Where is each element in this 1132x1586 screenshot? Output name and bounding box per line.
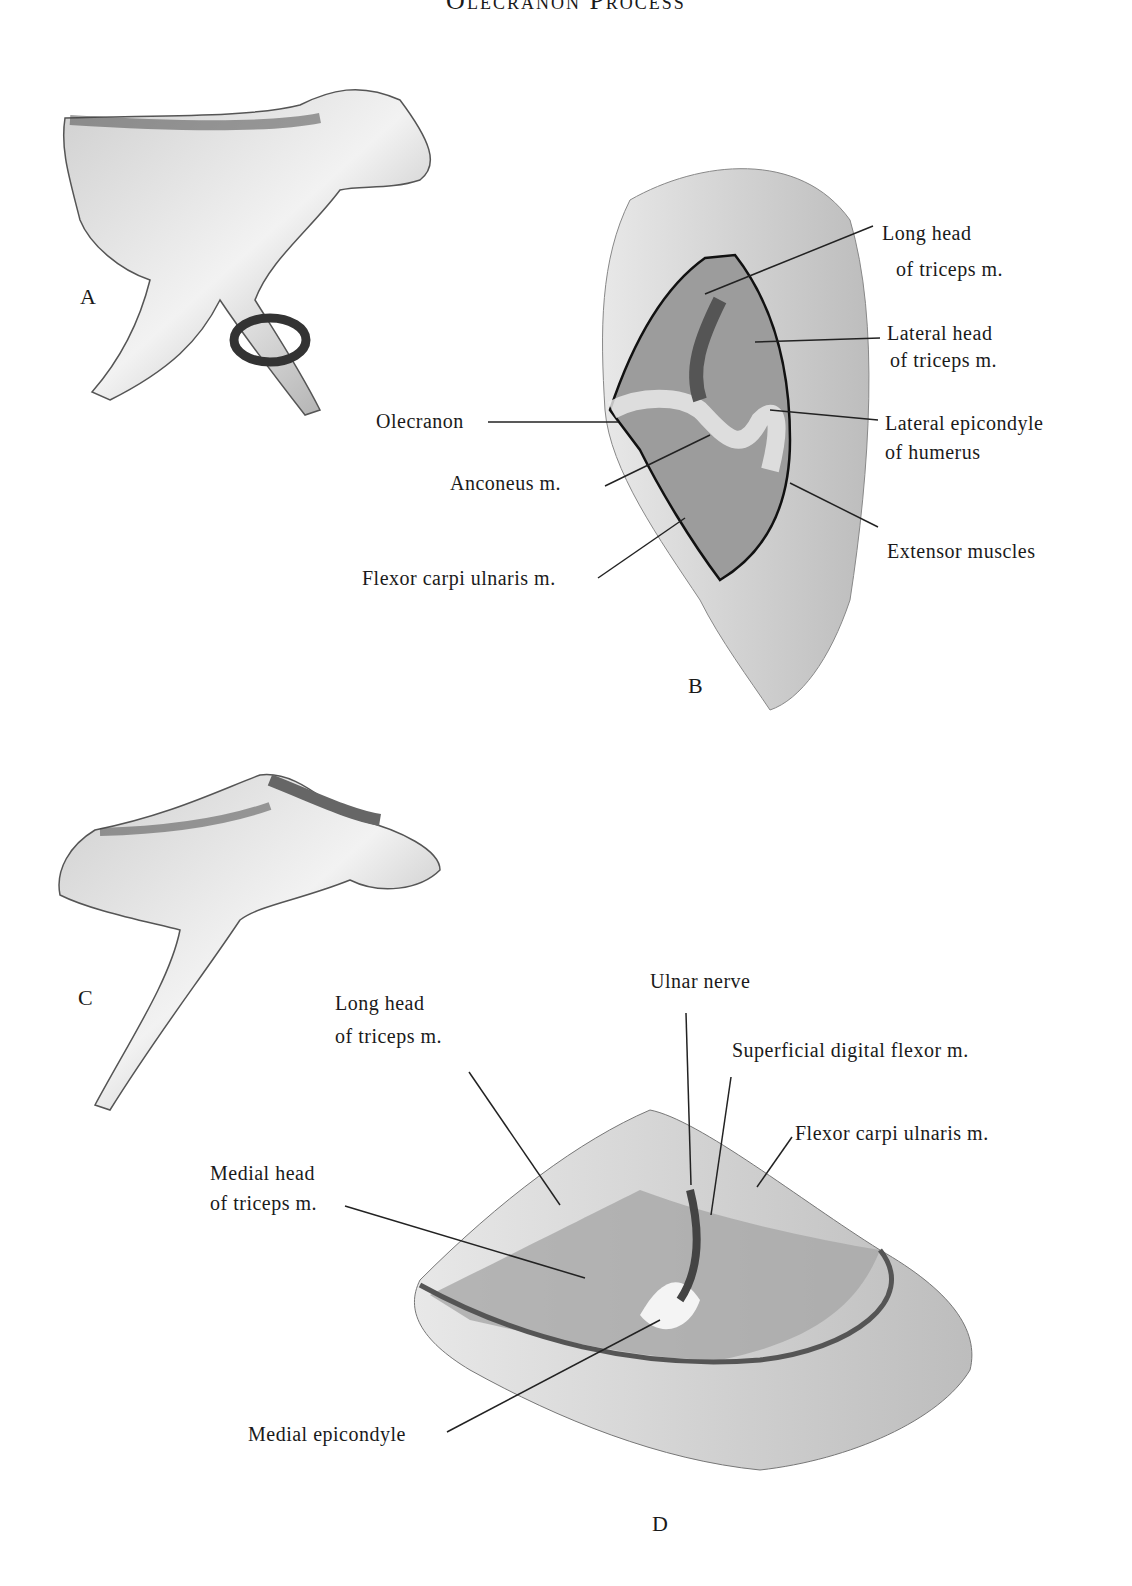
label-d-ulnar-nerve: Ulnar nerve xyxy=(650,968,750,994)
label-b-lateral-epicondyle-line1: Lateral epicondyle xyxy=(885,410,1043,436)
label-b-olecranon: Olecranon xyxy=(376,408,464,434)
label-b-lateral-head-line1: Lateral head xyxy=(887,320,992,346)
label-d-medial-epicondyle: Medial epicondyle xyxy=(248,1421,406,1447)
label-d-superficial-digital-flexor: Superficial digital flexor m. xyxy=(732,1037,969,1063)
figure-b-letter: B xyxy=(688,673,703,699)
label-d-medial-head-line2: of triceps m. xyxy=(210,1190,317,1216)
figure-d-letter: D xyxy=(652,1511,668,1537)
figure-c-letter: C xyxy=(78,985,93,1011)
label-b-long-head-line2: of triceps m. xyxy=(896,256,1003,282)
figure-d-elbow-medial-illustration xyxy=(414,1110,971,1470)
label-d-long-head-line1: Long head xyxy=(335,990,424,1016)
label-b-extensor-muscles: Extensor muscles xyxy=(887,538,1036,564)
label-b-lateral-epicondyle-line2: of humerus xyxy=(885,439,981,465)
label-b-anconeus: Anconeus m. xyxy=(450,470,561,496)
label-b-long-head-line1: Long head xyxy=(882,220,971,246)
figure-b-elbow-lateral-illustration xyxy=(603,169,869,710)
label-d-long-head-line2: of triceps m. xyxy=(335,1023,442,1049)
figure-c-dog-illustration xyxy=(59,775,440,1110)
label-b-lateral-head-line2: of triceps m. xyxy=(890,347,997,373)
figure-a-letter: A xyxy=(80,284,96,310)
figure-a-dog-illustration xyxy=(64,90,431,415)
label-b-flexor-carpi-ulnaris: Flexor carpi ulnaris m. xyxy=(362,565,556,591)
label-d-flexor-carpi-ulnaris: Flexor carpi ulnaris m. xyxy=(795,1120,989,1146)
label-d-medial-head-line1: Medial head xyxy=(210,1160,315,1186)
